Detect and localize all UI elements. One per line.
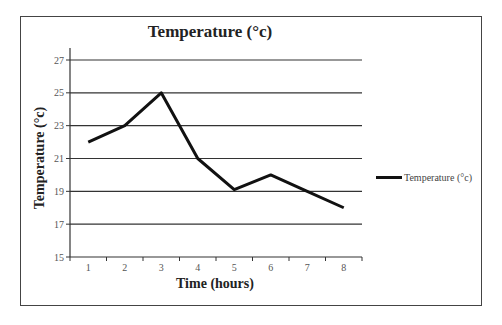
axes — [66, 48, 362, 261]
temperature-line — [88, 93, 344, 208]
gridlines — [70, 60, 362, 224]
svg-text:17: 17 — [54, 219, 64, 230]
legend-swatch-icon — [376, 176, 402, 179]
svg-text:8: 8 — [341, 262, 346, 273]
svg-text:27: 27 — [54, 55, 64, 66]
svg-text:4: 4 — [195, 262, 200, 273]
svg-text:25: 25 — [54, 87, 64, 98]
legend-label: Temperature (°c) — [404, 172, 472, 183]
svg-text:21: 21 — [54, 153, 64, 164]
plot-area: 1517192123252712345678 — [0, 0, 502, 325]
svg-text:5: 5 — [232, 262, 237, 273]
svg-text:23: 23 — [54, 120, 64, 131]
svg-text:1: 1 — [86, 262, 91, 273]
svg-text:15: 15 — [54, 252, 64, 263]
tick-labels: 1517192123252712345678 — [54, 55, 346, 274]
svg-text:7: 7 — [305, 262, 310, 273]
legend: Temperature (°c) — [376, 172, 472, 183]
svg-text:19: 19 — [54, 186, 64, 197]
svg-text:3: 3 — [159, 262, 164, 273]
svg-text:6: 6 — [268, 262, 273, 273]
svg-text:2: 2 — [122, 262, 127, 273]
